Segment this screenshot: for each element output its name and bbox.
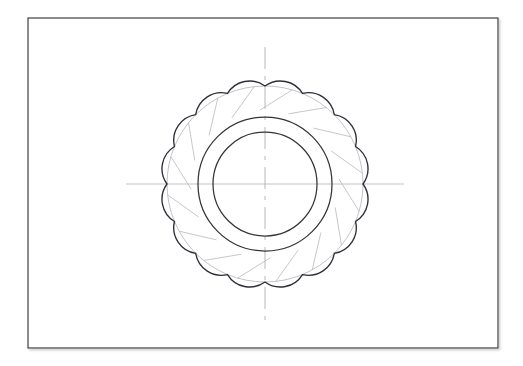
drawing-border-frame [28, 18, 498, 348]
drawing-canvas [0, 0, 523, 366]
technical-drawing-svg [0, 0, 523, 366]
